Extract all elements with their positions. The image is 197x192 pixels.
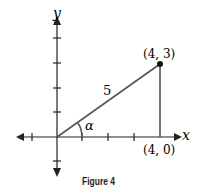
hypotenuse-label: 5 xyxy=(103,83,111,98)
x-axis xyxy=(16,133,182,141)
point-label-4-0: (4, 0) xyxy=(143,143,175,157)
figure-caption: Figure 4 xyxy=(15,176,182,187)
angle-arc xyxy=(78,123,82,137)
x-axis-right-arrow-icon xyxy=(174,133,182,141)
angle-label: α xyxy=(85,118,94,133)
hypotenuse xyxy=(57,64,160,137)
y-axis-label: y xyxy=(53,5,61,21)
x-axis-left-arrow-icon xyxy=(16,133,24,141)
right-triangle xyxy=(57,64,160,137)
x-axis-label: x xyxy=(182,127,190,143)
point-4-3 xyxy=(157,61,163,67)
y-axis xyxy=(53,16,61,177)
point-label-4-3: (4, 3) xyxy=(143,47,175,61)
coordinate-diagram xyxy=(0,0,197,192)
